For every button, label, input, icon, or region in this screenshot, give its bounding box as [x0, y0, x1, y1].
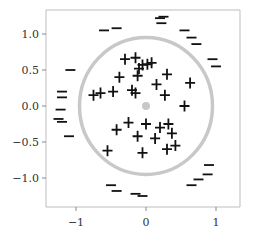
- y-tick-label: 0.5: [22, 64, 40, 77]
- center-dot: [142, 102, 150, 110]
- y-tick-label: 1.0: [22, 28, 40, 41]
- y-axis-ticks: 1.00.50.0−0.5−1.0: [12, 28, 46, 185]
- scatter-chart: −101 1.00.50.0−0.5−1.0: [0, 0, 258, 242]
- x-tick-label: 0: [143, 216, 150, 229]
- y-tick-label: 0.0: [22, 100, 40, 113]
- y-tick-label: −0.5: [12, 136, 39, 149]
- x-axis-ticks: −101: [68, 207, 220, 229]
- y-tick-label: −1.0: [12, 172, 39, 185]
- x-tick-label: 1: [213, 216, 220, 229]
- x-tick-label: −1: [68, 216, 84, 229]
